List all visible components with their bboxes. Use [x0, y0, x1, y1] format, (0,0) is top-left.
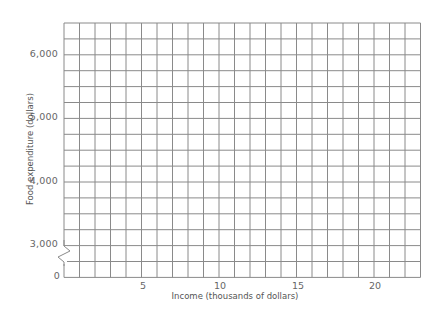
x-tick-label-10: 10	[205, 280, 235, 291]
graph-paper-grid	[0, 0, 439, 315]
y-axis-title: Food expenditure (dollars)	[25, 69, 35, 229]
x-tick-label-15: 15	[283, 280, 313, 291]
y-tick-label-3000: 3,000	[18, 238, 58, 249]
y-tick-label-6000: 6,000	[18, 48, 58, 59]
y-tick-label-5000: 5,000	[18, 111, 58, 122]
y-tick-label-0: 0	[20, 270, 60, 281]
x-tick-label-5: 5	[128, 280, 158, 291]
y-tick-label-4000: 4,000	[18, 175, 58, 186]
axis-break-icon	[58, 240, 70, 266]
x-tick-label-20: 20	[360, 280, 390, 291]
grid-lines	[64, 23, 421, 277]
x-axis-title: Income (thousands of dollars)	[135, 291, 335, 301]
